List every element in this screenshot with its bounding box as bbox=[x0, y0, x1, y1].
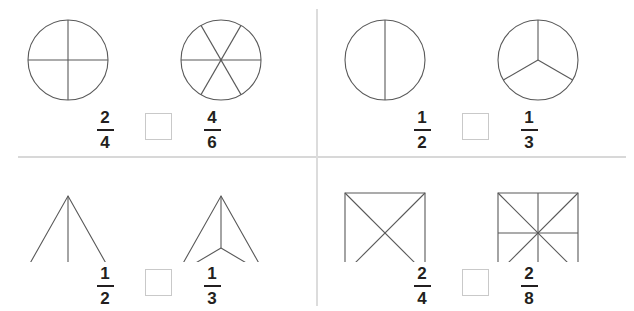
square-eighths bbox=[492, 170, 584, 262]
denominator: 6 bbox=[207, 133, 216, 151]
fraction-left: 1 2 bbox=[90, 263, 120, 307]
denominator: 4 bbox=[417, 289, 426, 307]
fraction-bar bbox=[521, 285, 538, 287]
numerator: 2 bbox=[524, 265, 533, 284]
comparison-answer-box[interactable] bbox=[462, 113, 489, 140]
fraction-right: 1 3 bbox=[514, 107, 544, 151]
problem-4-answer-row: 2 4 2 8 bbox=[317, 263, 634, 309]
fraction-bar bbox=[97, 129, 114, 131]
problem-3-answer-row: 1 2 1 3 bbox=[0, 263, 317, 309]
comparison-answer-box[interactable] bbox=[145, 269, 172, 296]
fraction-bar bbox=[414, 129, 431, 131]
problem-1: 2 4 4 6 bbox=[0, 0, 317, 155]
denominator: 2 bbox=[417, 133, 426, 151]
problem-1-answer-row: 2 4 4 6 bbox=[0, 107, 317, 153]
circle-sixths bbox=[175, 14, 267, 106]
fraction-bar bbox=[414, 285, 431, 287]
problem-3-shapes bbox=[0, 170, 317, 262]
fraction-bar bbox=[521, 129, 538, 131]
fraction-left: 1 2 bbox=[407, 107, 437, 151]
fraction-bar bbox=[204, 129, 221, 131]
problem-4-shapes bbox=[317, 170, 634, 262]
denominator: 8 bbox=[524, 289, 533, 307]
circle-thirds bbox=[492, 14, 584, 106]
fraction-bar bbox=[97, 285, 114, 287]
problem-4: 2 4 2 8 bbox=[317, 156, 634, 311]
comparison-answer-box[interactable] bbox=[462, 269, 489, 296]
fraction-left: 2 4 bbox=[407, 263, 437, 307]
numerator: 2 bbox=[417, 265, 426, 284]
problem-1-shapes bbox=[0, 14, 317, 106]
fraction-right: 1 3 bbox=[197, 263, 227, 307]
problem-3: 1 2 1 3 bbox=[0, 156, 317, 311]
problem-2-shapes bbox=[317, 14, 634, 106]
circle-halves bbox=[339, 14, 431, 106]
fraction-right: 4 6 bbox=[197, 107, 227, 151]
denominator: 4 bbox=[100, 133, 109, 151]
problem-2-answer-row: 1 2 1 3 bbox=[317, 107, 634, 153]
triangle-halves bbox=[22, 170, 114, 262]
fraction-bar bbox=[204, 285, 221, 287]
numerator: 1 bbox=[100, 265, 109, 284]
square-fourths bbox=[339, 170, 431, 262]
fraction-left: 2 4 bbox=[90, 107, 120, 151]
denominator: 3 bbox=[524, 133, 533, 151]
circle-fourths bbox=[22, 14, 114, 106]
numerator: 4 bbox=[207, 109, 216, 128]
numerator: 1 bbox=[417, 109, 426, 128]
numerator: 1 bbox=[207, 265, 216, 284]
denominator: 2 bbox=[100, 289, 109, 307]
numerator: 2 bbox=[100, 109, 109, 128]
numerator: 1 bbox=[524, 109, 533, 128]
problem-2: 1 2 1 3 bbox=[317, 0, 634, 155]
fraction-right: 2 8 bbox=[514, 263, 544, 307]
triangle-thirds bbox=[175, 170, 267, 262]
denominator: 3 bbox=[207, 289, 216, 307]
comparison-answer-box[interactable] bbox=[145, 113, 172, 140]
